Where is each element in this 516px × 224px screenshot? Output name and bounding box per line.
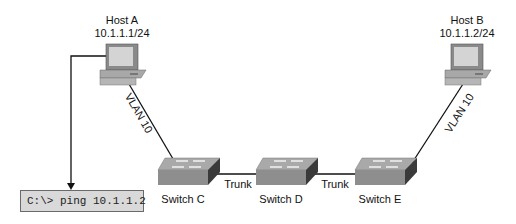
switch-e-label: Switch E xyxy=(352,193,408,206)
switch-d-icon[interactable] xyxy=(256,158,318,185)
host-a-name: Host A xyxy=(92,14,152,27)
arrow-head-icon xyxy=(67,183,75,190)
trunk-label-cd: Trunk xyxy=(220,178,256,191)
host-a-ip: 10.1.1.1/24 xyxy=(92,27,152,40)
switch-c-label: Switch C xyxy=(155,193,211,206)
host-b-name: Host B xyxy=(437,14,497,27)
ping-command-box: C:\> ping 10.1.1.2 xyxy=(20,190,144,212)
trunk-label-de: Trunk xyxy=(317,178,353,191)
host-b-computer-icon[interactable] xyxy=(445,44,491,85)
host-a-computer-icon[interactable] xyxy=(100,44,146,85)
host-b-ip: 10.1.1.2/24 xyxy=(437,27,497,40)
switch-d-label: Switch D xyxy=(253,193,309,206)
switch-c-icon[interactable] xyxy=(158,158,220,185)
switch-e-icon[interactable] xyxy=(355,158,417,185)
